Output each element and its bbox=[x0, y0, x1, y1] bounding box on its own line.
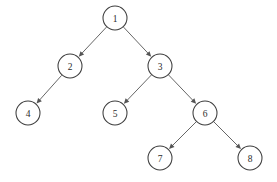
node-label: 2 bbox=[68, 62, 73, 72]
tree-edge-3-to-5 bbox=[124, 75, 152, 104]
tree-node-5[interactable]: 5 bbox=[103, 101, 127, 125]
edges-layer bbox=[37, 27, 241, 149]
tree-node-1[interactable]: 1 bbox=[103, 6, 127, 30]
tree-node-2[interactable]: 2 bbox=[58, 54, 82, 78]
tree-node-7[interactable]: 7 bbox=[148, 146, 172, 170]
tree-node-6[interactable]: 6 bbox=[193, 101, 217, 125]
edge-line bbox=[126, 75, 152, 102]
tree-edge-2-to-4 bbox=[37, 75, 62, 103]
tree-edge-6-to-7 bbox=[169, 122, 196, 149]
edge-line bbox=[38, 75, 61, 101]
node-label: 3 bbox=[158, 62, 163, 72]
edge-line bbox=[169, 75, 195, 102]
edge-line bbox=[81, 27, 107, 54]
tree-edge-1-to-3 bbox=[124, 27, 152, 57]
tree-node-4[interactable]: 4 bbox=[16, 101, 40, 125]
node-label: 8 bbox=[248, 154, 253, 164]
node-label: 1 bbox=[113, 14, 118, 24]
node-label: 6 bbox=[203, 109, 208, 119]
tree-node-3[interactable]: 3 bbox=[148, 54, 172, 78]
binary-tree-diagram: 12345678 bbox=[0, 0, 277, 182]
tree-edge-3-to-6 bbox=[169, 75, 197, 104]
edge-line bbox=[171, 122, 196, 147]
edge-line bbox=[214, 122, 239, 147]
tree-node-8[interactable]: 8 bbox=[238, 146, 262, 170]
node-label: 5 bbox=[113, 109, 118, 119]
node-label: 7 bbox=[158, 154, 163, 164]
tree-edge-6-to-8 bbox=[214, 122, 241, 149]
edge-line bbox=[124, 27, 150, 54]
tree-svg-canvas: 12345678 bbox=[0, 0, 277, 182]
tree-edge-1-to-2 bbox=[79, 27, 107, 57]
node-label: 4 bbox=[26, 109, 31, 119]
